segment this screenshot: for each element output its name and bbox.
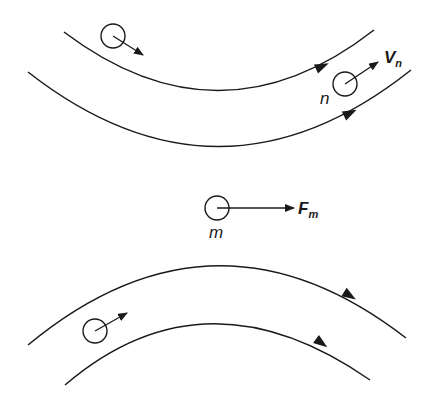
particle-bottom-left	[83, 313, 127, 343]
particle-n: n Vn	[320, 48, 402, 108]
particle-m-label: m	[209, 223, 223, 242]
top-streamlines	[28, 30, 411, 147]
top-streamline-lower	[28, 70, 411, 147]
particle-m: m Fm	[205, 196, 318, 242]
particle-top-left	[101, 24, 143, 55]
bottom-streamline-inner	[65, 324, 370, 385]
streamline-diagram: n Vn m Fm	[0, 0, 441, 400]
velocity-arrow-icon	[95, 313, 127, 331]
velocity-arrow-icon	[113, 36, 143, 55]
velocity-vn-label: Vn	[384, 48, 402, 69]
bottom-streamline-outer	[28, 266, 406, 345]
top-streamline-upper	[64, 30, 374, 91]
particle-n-label: n	[320, 89, 329, 108]
force-fm-label: Fm	[298, 199, 318, 220]
